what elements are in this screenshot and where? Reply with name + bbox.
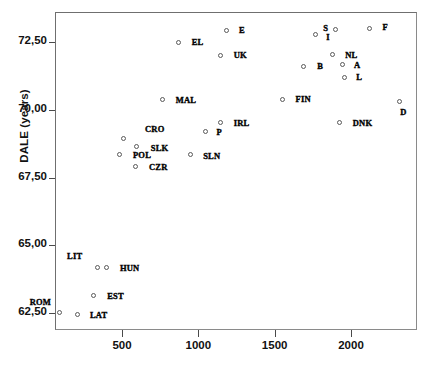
data-point-label: SLN	[203, 151, 220, 161]
data-point-label: NL	[345, 50, 357, 60]
data-point-marker	[301, 64, 306, 69]
data-point-marker	[218, 53, 223, 58]
data-point-label: FIN	[296, 94, 311, 104]
data-point-label: B	[317, 61, 323, 71]
y-axis-tick-label: 72,50	[0, 34, 47, 46]
data-point-label: EST	[107, 291, 124, 301]
data-point-label: L	[356, 72, 362, 82]
data-point-marker	[57, 310, 62, 315]
data-point-label: MAL	[176, 95, 196, 105]
x-axis-tick-mark	[122, 330, 123, 337]
data-point-marker	[104, 265, 109, 270]
data-point-marker	[203, 129, 208, 134]
data-point-marker	[188, 152, 193, 157]
data-point-marker	[121, 136, 126, 141]
data-point-marker	[280, 97, 285, 102]
plot-area: ROMLATESTLITHUNPOLCROSLKCZRSLNMALPIRLELE…	[55, 12, 417, 330]
data-point-marker	[224, 28, 229, 33]
x-axis-tick-label: 1000	[168, 339, 228, 351]
data-point-label: IRL	[234, 118, 250, 128]
y-axis-tick-label: 65,00	[0, 237, 47, 249]
data-point-marker	[330, 52, 335, 57]
data-point-label: UK	[234, 50, 247, 60]
x-axis-tick-label: 500	[92, 339, 152, 351]
data-point-label: ROM	[30, 297, 51, 307]
data-point-label: A	[354, 60, 360, 70]
data-point-marker	[134, 144, 139, 149]
scatter-chart: DALE (years) 62,5065,0067,5070,0072,50 R…	[0, 0, 424, 369]
data-point-label: F	[383, 22, 388, 32]
data-point-marker	[95, 265, 100, 270]
data-point-marker	[176, 40, 181, 45]
data-point-marker	[337, 120, 342, 125]
data-point-label: CRO	[145, 124, 165, 134]
data-point-label: HUN	[120, 263, 140, 273]
data-point-marker	[367, 26, 372, 31]
data-point-marker	[340, 62, 345, 67]
data-point-label: LIT	[67, 251, 82, 261]
data-point-label: SLK	[151, 143, 169, 153]
data-point-label: S	[323, 23, 328, 33]
data-point-label: LAT	[90, 310, 107, 320]
data-point-marker	[91, 293, 96, 298]
data-point-marker	[75, 312, 80, 317]
data-point-label: DNK	[353, 118, 373, 128]
y-axis-tick-label: 62,50	[0, 305, 47, 317]
x-axis-tick-label: 2000	[321, 339, 381, 351]
data-point-label: CZR	[149, 162, 168, 172]
x-axis-tick-mark	[351, 330, 352, 337]
y-axis-title: DALE (years)	[18, 46, 30, 206]
data-point-label: POL	[133, 150, 151, 160]
data-point-marker	[333, 27, 338, 32]
data-point-marker	[117, 152, 122, 157]
y-axis-tick-label: 67,50	[0, 170, 47, 182]
data-point-label: E	[239, 25, 245, 35]
x-axis-tick-mark	[275, 330, 276, 337]
y-axis-tick-label: 70,00	[0, 102, 47, 114]
data-point-marker	[397, 99, 402, 104]
data-point-marker	[218, 120, 223, 125]
data-point-label: D	[400, 107, 406, 117]
data-point-label: P	[216, 127, 221, 137]
x-axis-tick-label: 1500	[245, 339, 305, 351]
data-point-marker	[133, 164, 138, 169]
data-point-marker	[313, 32, 318, 37]
data-point-marker	[342, 75, 347, 80]
data-point-label: EL	[192, 37, 204, 47]
x-axis-tick-mark	[198, 330, 199, 337]
data-point-marker	[160, 97, 165, 102]
